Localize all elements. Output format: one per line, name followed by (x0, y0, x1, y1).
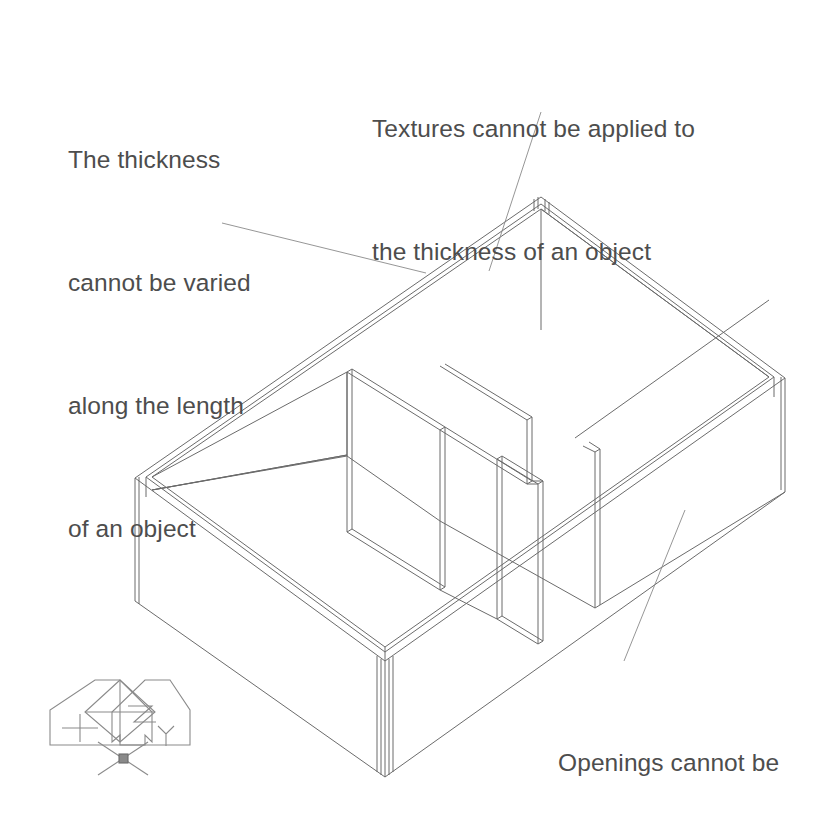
annotation-line: The thickness (68, 139, 251, 180)
compass-y-icon (158, 726, 174, 746)
centre-partition-left-leaf (347, 372, 440, 590)
annotation-line: Textures cannot be applied to (372, 108, 695, 149)
annotation-line: the thickness of an object (372, 231, 695, 272)
annotation-line: Openings cannot be (558, 742, 779, 783)
centre-partition-left-top-cap-a (347, 369, 352, 372)
annotation-openings-cannot-be-cut: Openings cannot be cut in the thickness … (558, 660, 779, 830)
centre-partition-return-cap-b (527, 417, 532, 420)
centre-partition-return-panel (440, 366, 527, 484)
centre-partition-left-bot-cap-a (347, 529, 352, 532)
centre-partition-right-bot-cap-a (497, 616, 502, 619)
centre-partition-return-panel-thickness (445, 364, 532, 481)
partition-right-top-to-rim-1 (583, 446, 595, 452)
leader-line-openings (624, 510, 685, 661)
centre-partition-left-top-cap-b (440, 427, 445, 430)
inside-floor-edge-right-bay (440, 521, 595, 608)
compass-origin-square (119, 754, 128, 763)
diagram-canvas: The thickness cannot be varied along the… (0, 0, 836, 830)
inside-floor-edge-ne (347, 456, 440, 521)
isometric-axis-compass-icon (50, 680, 190, 775)
inside-floor-edge-right-bay-2 (600, 492, 785, 605)
centre-partition-left-bot-cap-b (440, 587, 445, 590)
annotation-textures-cannot-be-applied: Textures cannot be applied to the thickn… (372, 26, 695, 354)
partition-right-bottom-cap (595, 605, 600, 608)
annotation-line: of an object (68, 508, 251, 549)
partition-right-top-to-rim-2 (589, 442, 600, 449)
centre-partition-right-top-cap-a (497, 456, 502, 459)
annotation-thickness-cannot-be-varied: The thickness cannot be varied along the… (68, 57, 251, 631)
centre-partition-right-bot-cap-b (538, 641, 543, 644)
centre-partition-floor-contact (440, 590, 497, 619)
partition-right-top-cap (595, 449, 600, 452)
annotation-line: cannot be varied (68, 262, 251, 303)
annotation-line: along the length (68, 385, 251, 426)
centre-partition-left-leaf-thickness (352, 369, 445, 587)
